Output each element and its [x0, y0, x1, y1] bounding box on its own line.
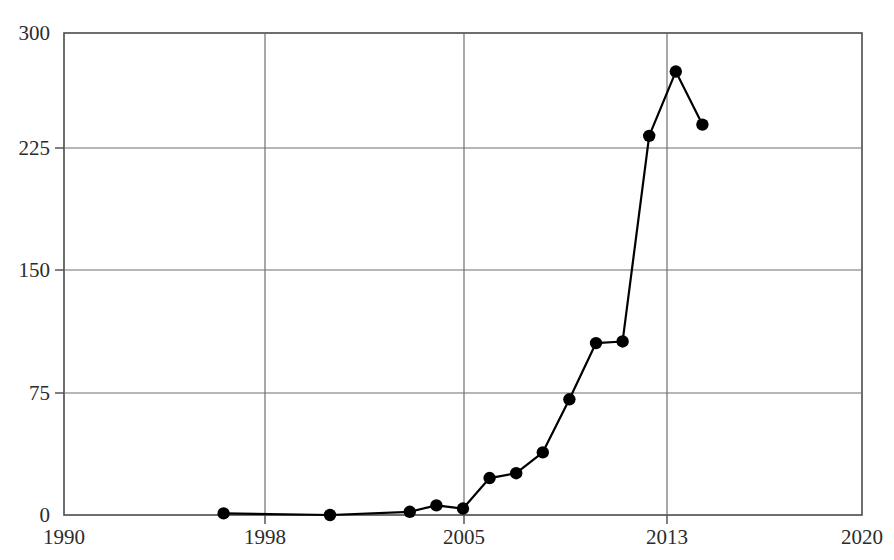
x-tick-label-2020: 2020 — [812, 527, 894, 548]
y-tick-label-75: 75 — [0, 383, 50, 404]
y-tick-label-0: 0 — [0, 505, 50, 526]
x-tick-label-1998: 1998 — [215, 527, 315, 548]
data-point — [696, 118, 708, 130]
y-tick-label-150: 150 — [0, 260, 50, 281]
vertical-gridlines — [265, 33, 667, 515]
plot-area — [0, 0, 894, 560]
y-tick-label-300: 300 — [0, 23, 50, 44]
data-point — [563, 393, 575, 405]
x-tick-label-2013: 2013 — [617, 527, 717, 548]
data-point — [643, 130, 655, 142]
data-point — [616, 335, 628, 347]
x-tick-label-2005: 2005 — [414, 527, 514, 548]
data-line-series-1 — [224, 72, 703, 515]
data-point — [590, 337, 602, 349]
data-point — [404, 506, 416, 518]
horizontal-gridlines — [64, 148, 862, 393]
data-point — [670, 65, 682, 77]
x-tick-label-1990: 1990 — [14, 527, 114, 548]
data-point — [457, 502, 469, 514]
plot-frame — [64, 33, 862, 515]
line-chart: 300 225 150 75 0 1990 1998 2005 2013 202… — [0, 0, 894, 560]
data-point — [537, 446, 549, 458]
y-axis-ticks — [55, 148, 64, 393]
data-markers-series-1 — [217, 65, 708, 521]
data-point — [430, 499, 442, 511]
data-point — [510, 467, 522, 479]
data-point — [483, 472, 495, 484]
data-point — [217, 507, 229, 519]
data-point — [324, 509, 336, 521]
y-tick-label-225: 225 — [0, 138, 50, 159]
